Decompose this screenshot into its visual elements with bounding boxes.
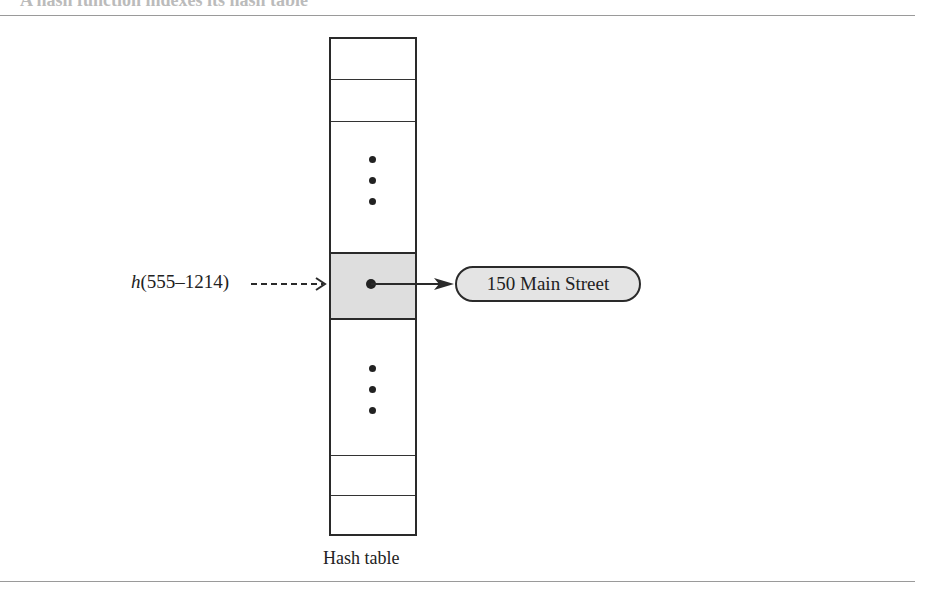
hash-function-call: h(555–1214) <box>131 271 229 293</box>
dashed-arrowhead-icon <box>316 278 325 290</box>
bottom-rule <box>0 581 915 582</box>
table-caption: Hash table <box>323 548 399 569</box>
record-node: 150 Main Street <box>455 266 641 302</box>
function-argument: (555–1214) <box>141 271 230 292</box>
function-name: h <box>131 271 141 292</box>
